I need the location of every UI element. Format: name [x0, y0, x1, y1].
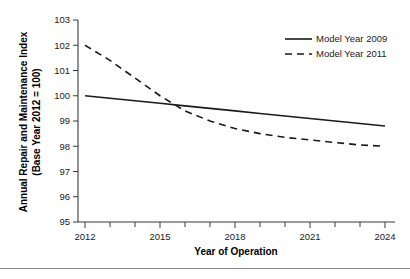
- chart-page: Annual Repair and Maintenance Index (Bas…: [0, 0, 410, 279]
- x-axis-title: Year of Operation: [194, 246, 277, 257]
- y-tick-label: 97: [59, 166, 70, 177]
- footer-divider: [0, 268, 410, 269]
- series-line-1: [85, 45, 385, 146]
- y-tick-label: 98: [59, 141, 70, 152]
- x-tick-label: 2018: [224, 231, 245, 242]
- series-group: [85, 45, 385, 146]
- x-tick-label: 2021: [299, 231, 320, 242]
- series-line-0: [85, 96, 385, 126]
- x-tick-label: 2015: [149, 231, 170, 242]
- x-tick-label: 2024: [374, 231, 395, 242]
- chart-legend: Model Year 2009Model Year 2011: [285, 33, 387, 59]
- y-tick-label: 103: [54, 14, 70, 25]
- legend-label-0: Model Year 2009: [316, 33, 387, 44]
- y-tick-label: 99: [59, 115, 70, 126]
- y-tick-label: 102: [54, 40, 70, 51]
- x-tick-label: 2012: [74, 231, 95, 242]
- y-tick-label: 101: [54, 65, 70, 76]
- y-tick-label: 100: [54, 90, 70, 101]
- y-axis-ticks: 9596979899100101102103: [54, 14, 78, 227]
- x-axis-ticks: 20122015201820212024: [74, 222, 395, 242]
- y-tick-label: 95: [59, 216, 70, 227]
- y-axis-title: Annual Repair and Maintenance Index (Bas…: [18, 31, 42, 212]
- legend-label-1: Model Year 2011: [316, 48, 387, 59]
- y-axis-title-line1: Annual Repair and Maintenance Index: [18, 31, 29, 212]
- line-chart: Annual Repair and Maintenance Index (Bas…: [0, 0, 410, 279]
- y-tick-label: 96: [59, 191, 70, 202]
- y-axis-title-line2: (Base Year 2012 = 100): [31, 68, 42, 175]
